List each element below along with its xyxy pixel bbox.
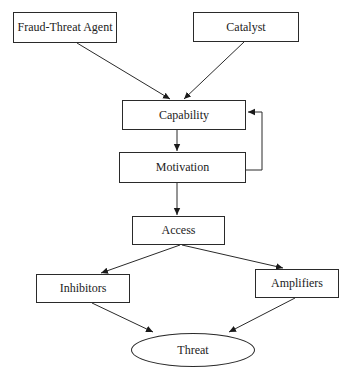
edge-inhibitors-to-threat [92,303,153,332]
edge-amplifiers-to-threat [229,298,295,332]
connector-layer [0,0,350,379]
edge-catalyst-to-capability [184,42,244,99]
node-access: Access [132,216,225,245]
node-inhibitors: Inhibitors [36,274,130,303]
node-capability: Capability [122,100,246,130]
node-label: Fraud-Threat Agent [18,20,113,35]
node-catalyst: Catalyst [193,12,299,42]
node-motivation: Motivation [119,152,246,183]
node-label: Motivation [156,160,209,175]
node-label: Catalyst [226,20,265,35]
node-amplifiers: Amplifiers [255,269,339,298]
edge-agent-to-capability [77,43,170,99]
edge-motivation-feedback-to-capability [246,112,262,170]
edge-access-to-amplifiers [182,245,283,268]
node-label: Capability [159,108,209,123]
node-label: Threat [177,343,208,358]
edge-access-to-inhibitors [101,245,180,273]
node-label: Inhibitors [60,281,107,296]
node-label: Access [162,223,196,238]
node-fraud-threat-agent: Fraud-Threat Agent [13,12,117,43]
node-label: Amplifiers [271,276,323,291]
node-threat: Threat [131,333,255,367]
